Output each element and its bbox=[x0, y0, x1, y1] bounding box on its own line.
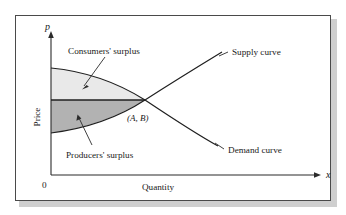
demand-curve-leader-line bbox=[215, 143, 224, 149]
y-axis-arrowhead bbox=[48, 31, 54, 38]
origin-label: 0 bbox=[42, 180, 47, 190]
consumers-surplus-label: Consumers' surplus bbox=[68, 46, 140, 56]
x-axis-variable-label: x bbox=[325, 169, 331, 180]
supply-curve-label: Supply curve bbox=[232, 47, 281, 57]
y-axis-variable-label: p bbox=[44, 21, 50, 32]
x-axis-title: Quantity bbox=[142, 182, 175, 192]
demand-curve-label: Demand curve bbox=[228, 145, 282, 155]
supply-demand-plot: p x 0 Price Quantity Consumers' surplus … bbox=[0, 0, 346, 215]
producers-surplus-label: Producers' surplus bbox=[66, 150, 134, 160]
figure-root: p x 0 Price Quantity Consumers' surplus … bbox=[0, 0, 346, 215]
consumers-surplus-region bbox=[51, 68, 145, 100]
equilibrium-point-label: (A, B) bbox=[127, 113, 149, 123]
x-axis-arrowhead bbox=[314, 172, 321, 178]
y-axis-title: Price bbox=[32, 108, 42, 127]
